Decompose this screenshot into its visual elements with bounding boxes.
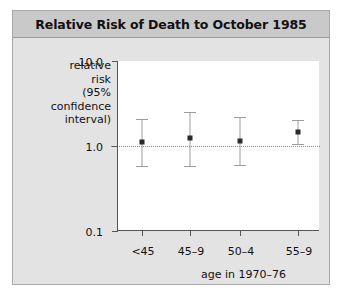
y-axis-caption-line-2: risk bbox=[31, 73, 111, 87]
x-tick-label-3: 55–9 bbox=[286, 245, 313, 258]
error-bar-cap-lower bbox=[292, 144, 304, 145]
data-point-marker bbox=[188, 135, 193, 140]
chart-figure: Relative Risk of Death to October 1985 r… bbox=[12, 10, 330, 285]
x-tick-label-1: 45–9 bbox=[178, 245, 205, 258]
chart-title-bar: Relative Risk of Death to October 1985 bbox=[13, 11, 329, 38]
data-point-marker bbox=[296, 130, 301, 135]
error-bar-cap-lower bbox=[184, 166, 196, 167]
error-bar-cap-upper bbox=[234, 117, 246, 118]
error-bar-cap-lower bbox=[234, 165, 246, 166]
error-bar-cap-upper bbox=[184, 112, 196, 113]
x-axis-label: age in 1970–76 bbox=[201, 268, 286, 281]
x-tick-1: 45–9 bbox=[190, 230, 191, 236]
x-tick-label-0: <45 bbox=[131, 245, 154, 258]
y-tick-label-1: 1.0 bbox=[86, 141, 104, 154]
plot-area: 10.0 1.0 0.1 <45 45–9 50–4 55–9 bbox=[117, 61, 319, 231]
page-title: Relative Risk of Death to October 1985 bbox=[35, 17, 306, 32]
x-tick-3: 55–9 bbox=[298, 230, 299, 236]
x-tick-label-2: 50–4 bbox=[228, 245, 255, 258]
x-tick-2: 50–4 bbox=[240, 230, 241, 236]
y-axis-caption-line-3: (95% bbox=[31, 86, 111, 100]
y-axis-caption-line-4: confidence bbox=[31, 100, 111, 114]
data-point-marker bbox=[140, 140, 145, 145]
y-axis-caption: relative risk (95% confidence interval) bbox=[31, 59, 111, 127]
error-bar-cap-lower bbox=[136, 166, 148, 167]
y-axis-caption-line-5: interval) bbox=[31, 113, 111, 127]
data-point-marker bbox=[238, 138, 243, 143]
y-tick-1: 1.0 bbox=[112, 146, 118, 147]
error-bar-cap-upper bbox=[136, 119, 148, 120]
y-tick-label-10: 10.0 bbox=[79, 56, 104, 69]
x-tick-0: <45 bbox=[142, 230, 143, 236]
y-tick-0-1: 0.1 bbox=[112, 231, 118, 232]
y-tick-label-0-1: 0.1 bbox=[86, 226, 104, 239]
y-tick-10: 10.0 bbox=[112, 61, 118, 62]
error-bar-cap-upper bbox=[292, 120, 304, 121]
